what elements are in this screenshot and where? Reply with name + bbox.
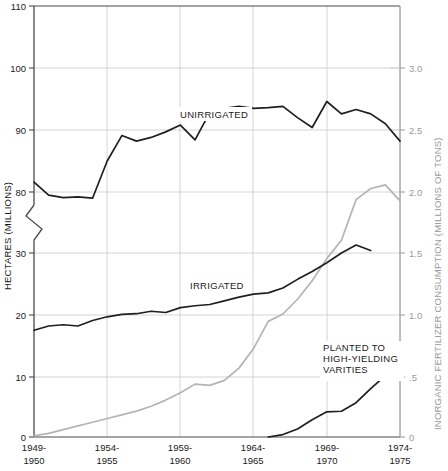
y-tick-label: 20 <box>15 310 26 321</box>
y2-tick-label: 2.0 <box>409 187 422 198</box>
x-tick-label-line1: 1974- <box>388 442 412 453</box>
x-tick-label-line1: 1969- <box>315 442 339 453</box>
annotation-unirrigated: UNIRRIGATED <box>176 107 252 121</box>
y2-tick-label: 2.5 <box>409 125 422 136</box>
y2-axis-title: INORGANIC FERTILIZER CONSUMPTION (MILLIO… <box>432 137 443 430</box>
right-axis-tick-labels: 3.0 2.5 2.0 1.5 1.0 .5 0 <box>409 63 422 443</box>
x-tick-label-line1: 1949- <box>22 442 46 453</box>
y-tick-label: 10 <box>15 372 26 383</box>
x-tick-label-line1: 1964- <box>241 442 265 453</box>
annotation-label-hyv-line1: PLANTED TO <box>323 342 385 353</box>
x-tick-label-line2: 1965 <box>242 455 263 466</box>
y2-tick-label: 0 <box>409 432 414 443</box>
x-tick-label-line1: 1954- <box>95 442 119 453</box>
annotation-irrigated: IRRIGATED <box>186 278 248 292</box>
x-tick-label-line2: 1970 <box>316 455 337 466</box>
x-tick-label-line2: 1950 <box>23 455 44 466</box>
annotation-label-hyv-line3: VARITIES <box>323 364 368 375</box>
x-tick-label-line2: 1975 <box>389 455 410 466</box>
annotation-high-yielding: PLANTED TO HIGH-YIELDING VARITIES <box>320 341 404 381</box>
y-tick-label: 100 <box>10 63 26 74</box>
annotation-label-unirrigated: UNIRRIGATED <box>180 109 248 120</box>
chart-figure: 110 100 90 80 30 20 10 0 3.0 2.5 2.0 1.5… <box>0 0 448 471</box>
x-tick-label-line1: 1959- <box>168 442 192 453</box>
annotation-label-hyv-line2: HIGH-YIELDING <box>323 353 398 364</box>
y-tick-label: 30 <box>15 248 26 259</box>
y2-tick-label: 3.0 <box>409 63 422 74</box>
chart-svg: 110 100 90 80 30 20 10 0 3.0 2.5 2.0 1.5… <box>0 0 448 471</box>
y-tick-label: 90 <box>15 125 26 136</box>
x-tick-label-line2: 1955 <box>96 455 117 466</box>
y-tick-label: 0 <box>21 432 26 443</box>
annotation-label-irrigated: IRRIGATED <box>190 280 244 291</box>
y-tick-label: 110 <box>11 1 26 12</box>
y-tick-label: 80 <box>15 187 26 198</box>
y2-tick-label: .5 <box>409 372 417 383</box>
y2-tick-label: 1.5 <box>409 248 422 259</box>
x-tick-label-line2: 1960 <box>169 455 190 466</box>
x-axis-tick-labels: 1949- 1950 1954- 1955 1959- 1960 1964- 1… <box>22 442 412 466</box>
y-axis-title: HECTARES (MILLIONS) <box>2 182 13 290</box>
y2-tick-label: 1.0 <box>409 310 422 321</box>
